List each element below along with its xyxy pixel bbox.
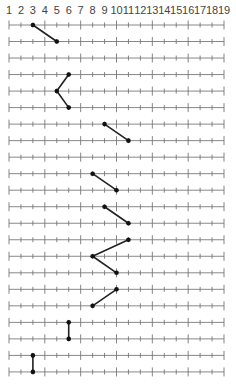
point-marker — [66, 105, 71, 110]
axis-label: 5 — [54, 4, 60, 16]
number-line-row — [9, 103, 224, 112]
number-lines — [9, 21, 224, 377]
number-line-row — [9, 70, 224, 79]
axis-label: 9 — [101, 4, 107, 16]
axis-label: 4 — [42, 4, 48, 16]
point-marker — [31, 353, 36, 358]
point-marker — [114, 271, 119, 276]
axis-label: 10 — [110, 4, 122, 16]
point-marker — [31, 23, 36, 28]
path-segment — [93, 240, 129, 257]
number-line-row — [9, 202, 224, 211]
number-line-row — [9, 136, 224, 145]
axis-label: 14 — [158, 4, 170, 16]
axis-label: 19 — [218, 4, 230, 16]
point-marker — [126, 221, 131, 226]
number-line-row — [9, 87, 224, 96]
axis-label: 18 — [206, 4, 218, 16]
number-line-row — [9, 37, 224, 46]
number-line-row — [9, 252, 224, 261]
number-line-row — [9, 301, 224, 310]
path-segment — [57, 75, 69, 92]
number-line-row — [9, 169, 224, 178]
number-line-row — [9, 54, 224, 63]
number-line-row — [9, 235, 224, 244]
point-marker — [126, 237, 131, 242]
point-marker — [114, 188, 119, 193]
axis-label: 3 — [30, 4, 36, 16]
path-segment — [57, 91, 69, 108]
axis-label: 7 — [78, 4, 84, 16]
point-marker — [66, 320, 71, 325]
point-marker — [54, 89, 59, 94]
number-line-row — [9, 21, 224, 30]
axis-label: 8 — [90, 4, 96, 16]
number-line-row — [9, 367, 224, 376]
point-marker — [102, 204, 107, 209]
point-marker — [54, 39, 59, 44]
point-marker — [126, 138, 131, 143]
point-marker — [66, 72, 71, 77]
number-line-row — [9, 318, 224, 327]
number-line-row — [9, 334, 224, 343]
point-marker — [90, 254, 95, 259]
axis-label: 17 — [194, 4, 206, 16]
number-line-row — [9, 351, 224, 360]
point-marker — [102, 122, 107, 127]
number-line-row — [9, 219, 224, 228]
axis-label: 15 — [170, 4, 182, 16]
point-marker — [66, 337, 71, 342]
point-marker — [114, 287, 119, 292]
point-marker — [90, 304, 95, 309]
number-line-row — [9, 120, 224, 129]
axis-label: 11 — [123, 4, 134, 16]
number-line-row — [9, 153, 224, 162]
axis-label: 1 — [6, 4, 12, 16]
axis-label: 12 — [134, 4, 146, 16]
axis-label: 6 — [66, 4, 72, 16]
number-line-diagram: 12345678910111213141516171819 — [0, 0, 236, 388]
axis-label: 2 — [18, 4, 24, 16]
axis-label: 16 — [182, 4, 194, 16]
point-marker — [31, 370, 36, 375]
axis-number-labels: 12345678910111213141516171819 — [6, 4, 230, 16]
point-marker — [90, 171, 95, 176]
axis-label: 13 — [146, 4, 158, 16]
